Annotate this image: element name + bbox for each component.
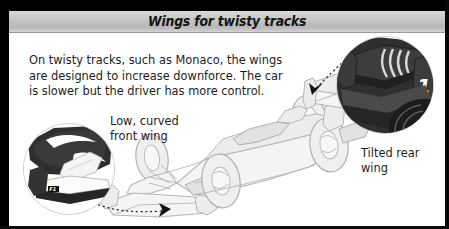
front-wing-closeup-inset: F1	[23, 123, 115, 215]
frame-top-border	[0, 0, 449, 11]
description-line-3: is slower but the driver has more contro…	[29, 84, 317, 100]
callout-rear-wing-line-1: Tilted rear	[361, 146, 445, 161]
callout-front-wing: Low, curved front wing	[110, 114, 230, 145]
callout-rear-wing-line-2: wing	[361, 161, 445, 176]
description-text: On twisty tracks, such as Monaco, the wi…	[29, 53, 317, 100]
rear-wing-closeup-inset: 1	[336, 36, 434, 134]
frame-bottom-border	[0, 226, 449, 229]
callout-front-wing-line-2: front wing	[110, 129, 230, 144]
figure-header-bar: Wings for twisty tracks	[9, 11, 445, 33]
front-wing-closeup-photo: F1	[24, 124, 114, 214]
figure-root: Wings for twisty tracks On twisty tracks…	[0, 0, 449, 229]
rear-wing-closeup-photo: 1	[337, 37, 433, 133]
page-title: Wings for twisty tracks	[148, 15, 306, 29]
callout-rear-wing: Tilted rear wing	[361, 146, 445, 177]
frame-right-border	[445, 0, 449, 229]
frame-left-border	[0, 0, 9, 229]
front-wing-badge-text: F1	[49, 186, 56, 192]
description-line-2: are designed to increase downforce. The …	[29, 69, 317, 85]
callout-front-wing-line-1: Low, curved	[110, 114, 230, 129]
figure-content-panel: On twisty tracks, such as Monaco, the wi…	[9, 33, 445, 226]
description-line-1: On twisty tracks, such as Monaco, the wi…	[29, 53, 317, 69]
